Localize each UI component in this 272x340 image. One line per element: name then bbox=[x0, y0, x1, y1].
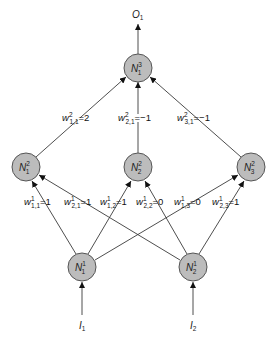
node-n31: N31 bbox=[124, 54, 152, 82]
edge-n12-n23 bbox=[199, 181, 244, 254]
svg-text:N22: N22 bbox=[131, 160, 142, 175]
output-label: O1 bbox=[132, 9, 144, 21]
input-label-1: I1 bbox=[79, 320, 86, 332]
svg-text:N11: N11 bbox=[75, 260, 86, 275]
weight-w2-11: w21,1=2 bbox=[62, 111, 89, 125]
input-label-2: I2 bbox=[190, 320, 197, 332]
edge-n11-n22 bbox=[88, 181, 131, 254]
svg-text:N21: N21 bbox=[19, 160, 30, 175]
weight-w2-21: w22,1=−1 bbox=[118, 111, 151, 125]
weight-w1-22: w12,2=0 bbox=[136, 195, 163, 209]
edge-n11-n21 bbox=[32, 181, 76, 254]
weight-w1-12: w11,2=1 bbox=[100, 195, 127, 209]
node-n12: N12 bbox=[179, 253, 207, 281]
weight-w1-21: w12,1=1 bbox=[64, 195, 91, 209]
weights-layer1: w11,1=1 w12,1=1 w11,2=1 w12,2=0 w11,3=0 … bbox=[24, 195, 239, 209]
node-n23: N23 bbox=[237, 153, 265, 181]
weight-w2-31: w23,1=−1 bbox=[177, 111, 210, 125]
svg-text:N12: N12 bbox=[186, 260, 197, 275]
edges-layer1-to-layer2 bbox=[32, 175, 244, 260]
neural-network-diagram: O1 N31 w21,1=2 w22,1=−1 w23,1=−1 N21 N22 bbox=[0, 0, 272, 340]
node-n22: N22 bbox=[124, 153, 152, 181]
input-edges bbox=[82, 282, 193, 315]
weight-w1-11: w11,1=1 bbox=[24, 195, 51, 209]
svg-text:N31: N31 bbox=[131, 61, 142, 76]
svg-text:N23: N23 bbox=[244, 160, 255, 175]
edge-n11-n23 bbox=[95, 175, 238, 260]
weight-w1-23: w12,3=1 bbox=[212, 195, 239, 209]
node-n11: N11 bbox=[68, 253, 96, 281]
weights-layer2: w21,1=2 w22,1=−1 w23,1=−1 bbox=[62, 111, 210, 125]
node-n21: N21 bbox=[12, 153, 40, 181]
weight-w1-13: w11,3=0 bbox=[174, 195, 201, 209]
